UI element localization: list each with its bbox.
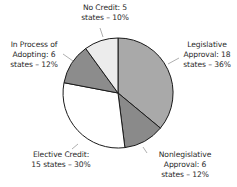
label-no-credit: No Credit: 5 states – 10% <box>72 3 138 23</box>
label-nonlegislative: Nonlegislative Approval: 6 states – 12% <box>150 150 220 180</box>
label-elective: Elective Credit: 15 states – 30% <box>26 150 96 170</box>
label-legislative-line2: Approval: 18 <box>176 50 237 60</box>
label-nonlegislative-line2: Approval: 6 <box>150 160 220 170</box>
label-legislative-line3: states – 36% <box>176 60 237 70</box>
leader-line-in-process <box>63 54 73 61</box>
label-elective-line2: 15 states – 30% <box>26 160 96 170</box>
leader-line-no-credit <box>100 28 103 37</box>
label-legislative-line1: Legislative <box>176 40 237 50</box>
label-in-process-line2: Adopting: 6 <box>4 50 64 60</box>
label-no-credit-line2: states – 10% <box>72 13 138 23</box>
label-nonlegislative-line1: Nonlegislative <box>150 150 220 160</box>
leader-line-nonlegislative <box>143 147 147 153</box>
label-in-process-line1: In Process of <box>4 40 64 50</box>
label-elective-line1: Elective Credit: <box>26 150 96 160</box>
label-in-process-line3: states – 12% <box>4 60 64 70</box>
label-in-process: In Process of Adopting: 6 states – 12% <box>4 40 64 70</box>
label-legislative: Legislative Approval: 18 states – 36% <box>176 40 237 70</box>
leader-line-elective <box>72 144 78 149</box>
label-nonlegislative-line3: states – 12% <box>150 170 220 180</box>
label-no-credit-line1: No Credit: 5 <box>72 3 138 13</box>
